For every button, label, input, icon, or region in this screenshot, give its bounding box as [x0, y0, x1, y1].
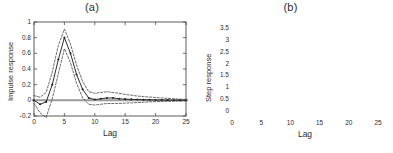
x-tick-label: 20	[339, 119, 359, 126]
x-tick-label: 20	[146, 118, 166, 125]
y-tick-label: 3	[208, 36, 229, 43]
panel-a: (a) Impulse response Lag 0510152025-0.20…	[0, 0, 196, 153]
x-tick-label: 5	[251, 119, 271, 126]
x-tick-label: 0	[24, 118, 44, 125]
y-tick-label: 1	[208, 83, 229, 90]
x-tick-label: 5	[54, 118, 74, 125]
panel-b: (b) Step response Lag 051015202500.511.5…	[196, 0, 393, 153]
y-tick-label: 0	[10, 96, 31, 103]
y-tick-label: 1.5	[208, 71, 229, 78]
y-tick-label: 0.6	[10, 49, 31, 56]
x-tick-label: 15	[310, 119, 330, 126]
y-tick-label: 0.4	[10, 65, 31, 72]
y-tick-label: 3.5	[208, 24, 229, 31]
x-tick-label: 0	[222, 119, 242, 126]
y-tick-label: 0.2	[10, 81, 31, 88]
y-tick-label: 0.5	[208, 95, 229, 102]
y-tick-label: 0.8	[10, 34, 31, 41]
y-tick-label: 0	[208, 107, 229, 114]
y-tick-label: 2.5	[208, 48, 229, 55]
x-tick-label: 10	[280, 119, 300, 126]
figure-container: (a) Impulse response Lag 0510152025-0.20…	[0, 0, 393, 153]
x-tick-label: 15	[115, 118, 135, 125]
x-tick-label: 25	[176, 118, 196, 125]
y-tick-label: 2	[208, 60, 229, 67]
y-tick-label: -0.2	[10, 112, 31, 119]
x-tick-label: 10	[85, 118, 105, 125]
x-tick-label: 25	[368, 119, 388, 126]
y-tick-label: 1	[10, 18, 31, 25]
